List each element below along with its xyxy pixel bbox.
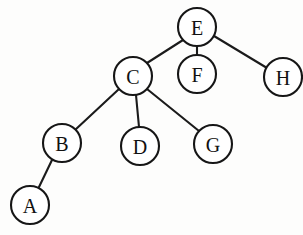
node-label-h: H <box>276 67 290 89</box>
edge-e-c <box>147 40 183 63</box>
node-label-g: G <box>206 134 220 156</box>
node-a[interactable]: A <box>11 186 49 224</box>
tree-diagram-svg: EFHCBDGA <box>0 0 303 235</box>
node-label-e: E <box>191 17 203 39</box>
edge-c-b <box>75 89 119 130</box>
node-label-c: C <box>126 66 139 88</box>
node-c[interactable]: C <box>114 57 152 95</box>
edge-c-g <box>147 89 199 131</box>
tree-diagram-canvas: EFHCBDGA <box>0 0 303 235</box>
node-label-d: D <box>133 136 147 158</box>
node-layer: EFHCBDGA <box>11 8 302 224</box>
node-e[interactable]: E <box>178 8 216 46</box>
edge-b-a <box>39 160 52 187</box>
node-label-f: F <box>191 64 202 86</box>
edge-layer <box>39 36 267 187</box>
edge-e-h <box>214 36 267 68</box>
edge-c-d <box>136 95 139 127</box>
node-h[interactable]: H <box>264 58 302 96</box>
node-label-b: B <box>55 133 68 155</box>
node-label-a: A <box>23 195 38 217</box>
node-g[interactable]: G <box>194 125 232 163</box>
node-f[interactable]: F <box>178 55 216 93</box>
node-d[interactable]: D <box>121 127 159 165</box>
node-b[interactable]: B <box>43 124 81 162</box>
